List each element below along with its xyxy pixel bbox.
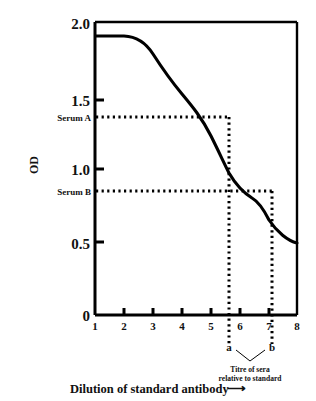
chart-figure: 2.0 1.5 1.0 0.5 0 Serum A Serum B OD 1 2… [0, 0, 316, 401]
serum-b-label: Serum B [57, 187, 91, 197]
x-tick-label-6: 6 [237, 320, 243, 332]
serum-row-labels: Serum A Serum B [57, 113, 91, 197]
x-tick-label-4: 4 [179, 320, 185, 332]
x-tick-label-8: 8 [294, 320, 300, 332]
x-tick-label-1: 1 [92, 320, 98, 332]
x-tick-label-3: 3 [150, 320, 156, 332]
y-tick-label-1-0: 1.0 [71, 162, 90, 178]
marker-label-a: a [226, 341, 232, 353]
titre-leader-lines [236, 350, 265, 361]
standard-curve-line [96, 36, 297, 243]
serum-a-reference-lines [96, 117, 229, 344]
marker-label-b: b [269, 341, 275, 353]
plot-frame [95, 22, 297, 315]
leader-line-right [250, 350, 265, 361]
y-tick-label-0: 0 [83, 308, 91, 324]
x-axis-tick-labels: 1 2 3 4 5 6 7 8 [92, 320, 300, 332]
titre-caption: Titre of sera relative to standard [219, 365, 283, 383]
y-axis-tick-labels: 2.0 1.5 1.0 0.5 0 [71, 16, 90, 324]
x-axis-title-arrow-icon: ⟶ [227, 382, 246, 396]
od-dilution-chart: 2.0 1.5 1.0 0.5 0 Serum A Serum B OD 1 2… [0, 0, 316, 401]
titre-caption-line-1: Titre of sera [230, 365, 270, 374]
x-axis-title: Dilution of standard antibody [70, 382, 229, 396]
y-tick-label-0-5: 0.5 [71, 236, 90, 252]
x-tick-label-2: 2 [121, 320, 127, 332]
x-tick-label-5: 5 [208, 320, 214, 332]
y-tick-label-2-0: 2.0 [71, 16, 90, 32]
x-axis-title-group: Dilution of standard antibody ⟶ [70, 382, 246, 396]
y-tick-label-1-5: 1.5 [71, 93, 90, 109]
serum-a-label: Serum A [57, 113, 91, 123]
y-axis-title: OD [27, 156, 41, 174]
leader-line-left [236, 350, 250, 361]
